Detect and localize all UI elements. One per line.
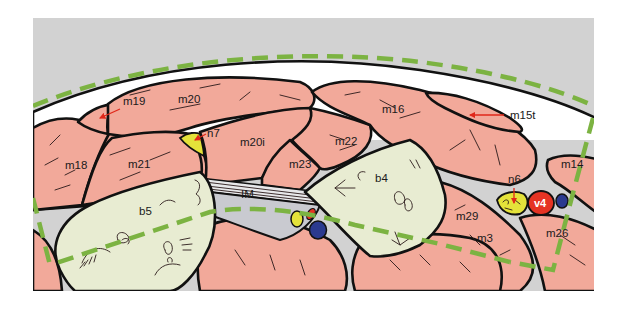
label-m16: m16 [382, 103, 404, 115]
label-m15t: m15t [510, 109, 536, 121]
anatomical-cross-section-figure: m19 m20 m16 m15t n7 m20i m22 m18 m21 m23… [0, 0, 627, 311]
label-m19: m19 [123, 95, 145, 107]
label-m3: m3 [477, 232, 493, 244]
label-b5: b5 [139, 205, 152, 217]
label-m21: m21 [128, 158, 150, 170]
label-m23: m23 [289, 158, 311, 170]
vein-im-blue [310, 221, 327, 239]
label-n7: n7 [207, 127, 220, 139]
label-im: IM [241, 188, 254, 200]
label-v4: v4 [534, 197, 547, 209]
vein-n6-blue [556, 194, 568, 208]
label-m20: m20 [178, 93, 200, 105]
label-m26: m26 [546, 227, 568, 239]
label-m22: m22 [335, 135, 357, 147]
label-m14: m14 [561, 158, 584, 170]
label-m20i: m20i [240, 136, 265, 148]
label-m18: m18 [65, 159, 87, 171]
label-m29: m29 [456, 210, 478, 222]
label-n6: n6 [508, 173, 521, 185]
label-b4: b4 [375, 172, 388, 184]
